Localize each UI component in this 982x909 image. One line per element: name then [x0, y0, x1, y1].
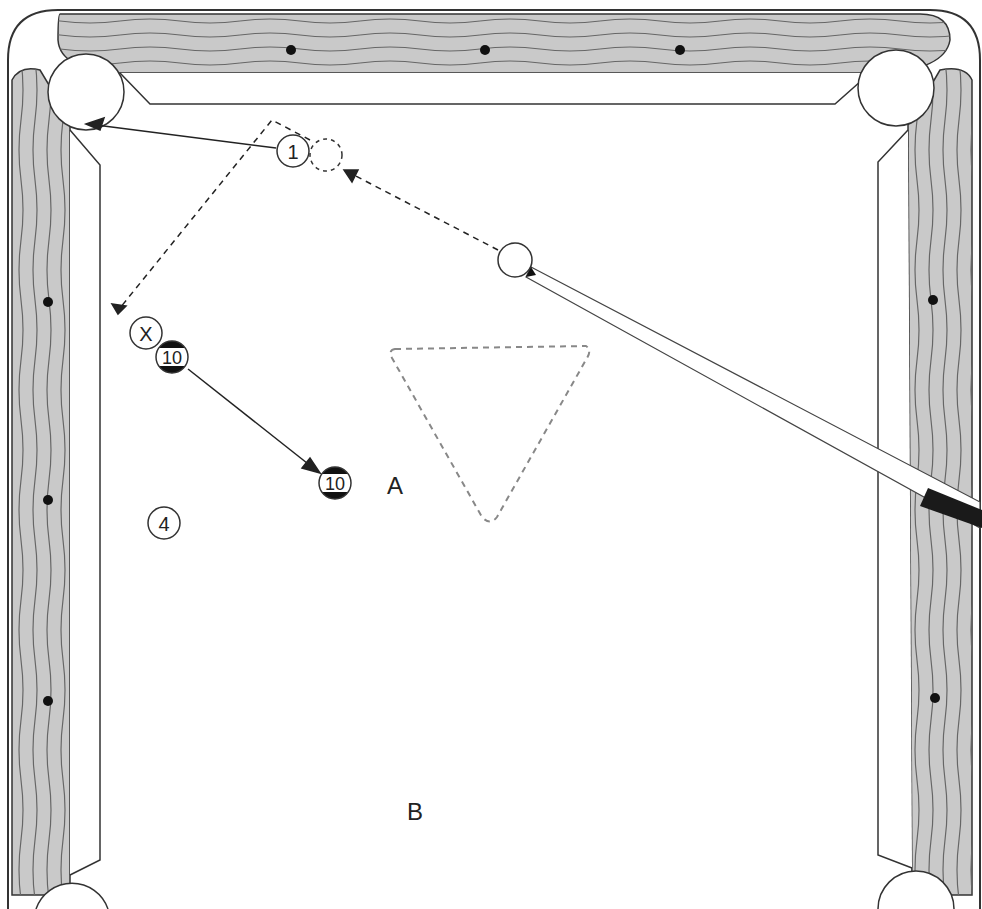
top-left-pocket	[48, 54, 124, 130]
top-rail	[58, 14, 950, 73]
cue-ball	[498, 243, 532, 277]
right-cushion	[878, 130, 912, 868]
svg-text:10: 10	[325, 474, 345, 494]
pool-table-diagram: 1 X 10 10 4 A B	[0, 0, 982, 909]
left-cushion	[70, 130, 100, 875]
ghost-ball	[310, 139, 342, 171]
label-b: B	[407, 798, 423, 825]
svg-text:4: 4	[158, 513, 169, 535]
left-rail	[12, 69, 70, 895]
label-a: A	[387, 472, 403, 499]
rack-triangle	[391, 346, 590, 522]
object-ball-path	[96, 125, 276, 148]
rail-diamonds	[43, 45, 940, 706]
arrowhead-icon	[112, 304, 126, 314]
arrowhead-icon	[344, 170, 358, 182]
cue-ball-path-to-ghost	[350, 173, 498, 250]
arrowhead-icon	[302, 458, 320, 473]
svg-text:1: 1	[287, 141, 298, 163]
ball-10-start: 10	[156, 341, 188, 373]
top-right-pocket	[858, 50, 934, 126]
svg-text:10: 10	[162, 348, 182, 368]
ball-1: 1	[277, 135, 309, 167]
table-frame	[8, 10, 980, 909]
svg-text:X: X	[139, 323, 152, 345]
top-cushion	[120, 73, 870, 104]
ball-10-end: 10	[319, 467, 351, 499]
shot-paths	[86, 118, 498, 473]
ball-4: 4	[148, 507, 180, 539]
ball-x: X	[130, 317, 162, 349]
ten-ball-path	[188, 369, 312, 467]
